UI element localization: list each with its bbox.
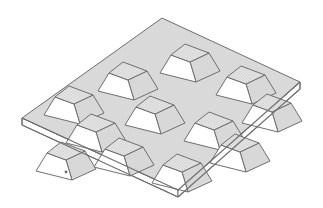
frustum-array-drawing bbox=[0, 0, 323, 208]
figure-root: Axonometric line drawing of a base plate… bbox=[0, 0, 323, 208]
corner-tick-mark bbox=[65, 171, 68, 174]
